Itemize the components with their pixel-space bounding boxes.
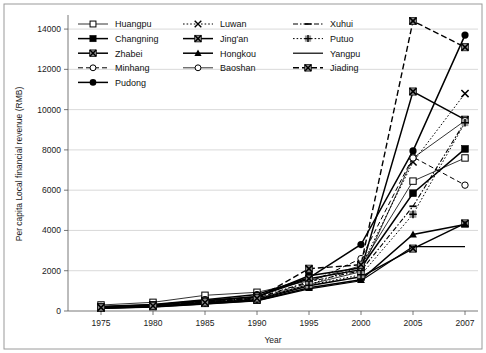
marker-open-square: [90, 21, 96, 27]
y-tick-label: 14000: [37, 24, 61, 34]
legend-item-luwan[interactable]: Luwan: [183, 19, 247, 29]
data-point-open-circle: [462, 182, 468, 188]
y-tick-label: 10000: [37, 105, 61, 115]
marker-open-square: [410, 178, 416, 184]
legend-item-baoshan[interactable]: Baoshan: [183, 63, 256, 73]
data-point-filled-square: [90, 35, 96, 41]
marker-open-circle: [195, 65, 201, 71]
legend-label: Jiading: [330, 63, 359, 73]
data-point-cross-square: [253, 295, 260, 302]
marker-filled-square: [462, 145, 469, 152]
data-point-open-square: [410, 178, 416, 184]
data-point-dash-mark: [305, 23, 312, 25]
legend-label: Jing'an: [220, 34, 248, 44]
data-point-cross-square: [305, 64, 312, 71]
legend-label: Baoshan: [220, 63, 256, 73]
y-tick-label: 0: [56, 306, 61, 316]
legend-item-xuhui[interactable]: Xuhui: [293, 19, 353, 29]
marker-filled-square: [90, 35, 96, 41]
data-point-open-square: [462, 155, 468, 161]
marker-filled-square: [410, 190, 417, 197]
data-point-cross-square: [409, 17, 416, 24]
marker-open-circle: [462, 182, 468, 188]
chart-container: 0200040006000800010000120001400019751980…: [0, 0, 486, 353]
marker-filled-circle: [357, 241, 364, 248]
series-line: [101, 35, 465, 306]
x-axis-title: Year: [264, 335, 281, 345]
data-point-filled-square: [462, 145, 469, 152]
x-tick-label: 2007: [456, 318, 475, 328]
data-point-open-circle: [195, 65, 201, 71]
axis-layer: 0200040006000800010000120001400019751980…: [37, 15, 478, 328]
x-tick-label: 2000: [352, 318, 371, 328]
marker-filled-circle: [461, 32, 468, 39]
y-tick-label: 4000: [42, 225, 61, 235]
series-jiading: [97, 17, 468, 311]
legend-item-minhang[interactable]: Minhang: [78, 63, 150, 73]
legend-item-putuo[interactable]: Putuo: [293, 34, 354, 44]
data-point-cross-square: [409, 88, 416, 95]
series-layer: [97, 17, 469, 311]
data-point-cross-square: [461, 44, 468, 51]
data-point-cross-x: [195, 21, 202, 28]
data-point-filled-square: [410, 190, 417, 197]
data-point-plus-mark: [357, 271, 365, 279]
series-line: [101, 92, 465, 308]
marker-filled-circle: [90, 79, 97, 86]
marker-filled-circle: [409, 147, 416, 154]
data-point-cross-x: [461, 90, 468, 97]
legend-item-changning[interactable]: Changning: [78, 34, 159, 44]
legend-layer: HuangpuLuwanXuhuiChangningJing'anPutuoZh…: [78, 19, 360, 87]
legend-item-zhabei[interactable]: Zhabei: [78, 49, 143, 59]
data-point-plus-mark: [305, 35, 312, 42]
series-line: [101, 94, 465, 308]
data-point-open-square: [90, 21, 96, 27]
legend-label: Pudong: [115, 78, 146, 88]
legend-label: Minhang: [115, 63, 150, 73]
legend-label: Zhabei: [115, 49, 143, 59]
data-point-cross-square: [305, 265, 312, 272]
data-point-filled-circle: [90, 79, 97, 86]
data-point-plus-mark: [461, 119, 469, 127]
legend-item-yangpu[interactable]: Yangpu: [293, 49, 360, 59]
legend-label: Huangpu: [115, 19, 152, 29]
legend-item-jing-an[interactable]: Jing'an: [183, 34, 248, 44]
legend-label: Xuhui: [330, 19, 353, 29]
data-point-open-circle: [90, 65, 96, 71]
marker-dash: [305, 23, 312, 25]
data-point-cross-square: [357, 261, 364, 268]
data-point-filled-circle: [461, 32, 468, 39]
data-point-dash-mark: [409, 205, 416, 207]
legend-label: Changning: [115, 34, 159, 44]
marker-open-square: [462, 155, 468, 161]
y-tick-label: 8000: [42, 145, 61, 155]
data-point-cross-square: [149, 302, 156, 309]
x-tick-label: 1980: [144, 318, 163, 328]
legend-item-huangpu[interactable]: Huangpu: [78, 19, 152, 29]
data-point-cross-square: [195, 35, 202, 42]
x-tick-label: 2005: [404, 318, 423, 328]
data-point-cross-square: [201, 299, 208, 306]
y-axis-title: Per capita Local financial revenue (RMB): [14, 87, 24, 242]
marker-dash: [409, 205, 416, 207]
series-hongkou: [97, 221, 469, 312]
marker-x: [461, 90, 468, 97]
series-jing-an: [97, 88, 468, 311]
data-point-plus-mark: [409, 211, 417, 219]
series-pudong: [97, 32, 468, 310]
series-line: [101, 149, 465, 307]
legend-label: Luwan: [220, 19, 247, 29]
x-tick-label: 1985: [196, 318, 215, 328]
marker-open-circle: [410, 155, 416, 161]
legend-label: Putuo: [330, 34, 354, 44]
marker-x: [195, 21, 202, 28]
legend-item-jiading[interactable]: Jiading: [293, 63, 359, 73]
y-tick-label: 2000: [42, 266, 61, 276]
data-point-filled-circle: [409, 147, 416, 154]
legend-item-hongkou[interactable]: Hongkou: [183, 49, 256, 59]
series-luwan: [97, 90, 468, 311]
y-tick-label: 6000: [42, 185, 61, 195]
legend-label: Hongkou: [220, 49, 256, 59]
data-point-cross-square: [90, 50, 97, 57]
legend-item-pudong[interactable]: Pudong: [78, 78, 146, 88]
